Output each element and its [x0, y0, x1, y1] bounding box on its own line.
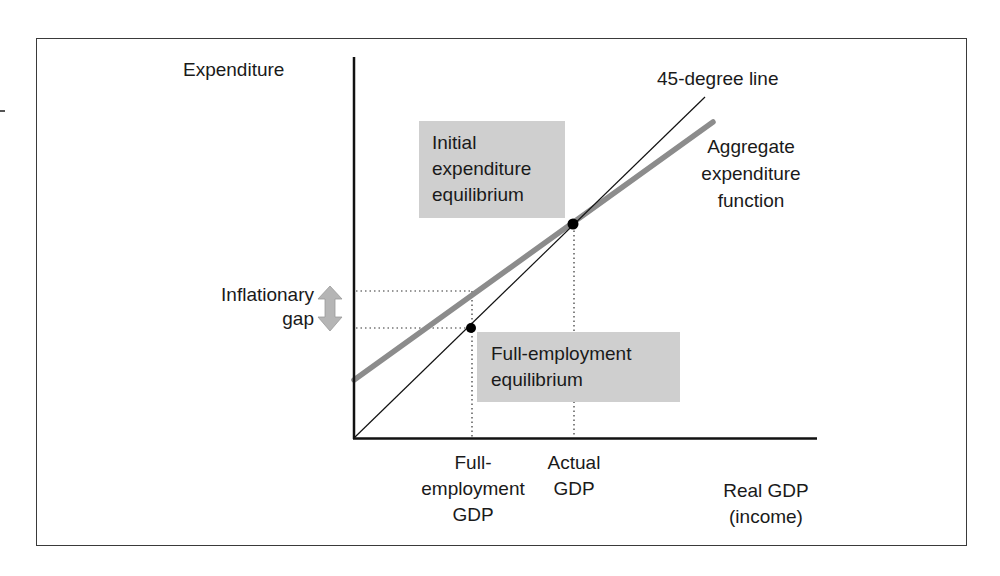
- tick-full-line2: employment: [412, 476, 534, 502]
- tick-full-line1: Full-: [412, 450, 534, 476]
- tick-actual-line1: Actual: [534, 450, 614, 476]
- x-axis-label-line1: Real GDP: [706, 478, 826, 504]
- x-axis-label-line2: (income): [706, 504, 826, 530]
- inflationary-gap-label: Inflationary gap: [196, 283, 314, 331]
- initial-box-line3: equilibrium: [432, 182, 531, 208]
- full-box-line2: equilibrium: [491, 367, 631, 393]
- initial-box-line2: expenditure: [432, 156, 531, 182]
- ae-label-line1: Aggregate: [690, 133, 812, 160]
- tick-actual-gdp: Actual GDP: [534, 450, 614, 502]
- full-employment-equilibrium-point: [466, 323, 476, 333]
- full-box-line1: Full-employment: [491, 341, 631, 367]
- y-axis-label: Expenditure: [183, 56, 284, 83]
- initial-box-line1: Initial: [432, 130, 531, 156]
- inflationary-gap-arrow-icon: [318, 286, 342, 331]
- ae-label-line3: function: [690, 187, 812, 214]
- gap-label-line2: gap: [196, 307, 314, 331]
- ae-label-line2: expenditure: [690, 160, 812, 187]
- forty-five-degree-label: 45-degree line: [657, 65, 778, 92]
- ae-function-label: Aggregate expenditure function: [690, 133, 812, 214]
- gap-label-line1: Inflationary: [196, 283, 314, 307]
- tick-full-employment-gdp: Full- employment GDP: [412, 450, 534, 528]
- tick-actual-line2: GDP: [534, 476, 614, 502]
- initial-equilibrium-point: [568, 219, 579, 230]
- initial-equilibrium-box: Initial expenditure equilibrium: [419, 121, 565, 218]
- tick-full-line3: GDP: [412, 502, 534, 528]
- full-employment-equilibrium-box: Full-employment equilibrium: [477, 332, 680, 402]
- x-axis-label: Real GDP (income): [706, 478, 826, 530]
